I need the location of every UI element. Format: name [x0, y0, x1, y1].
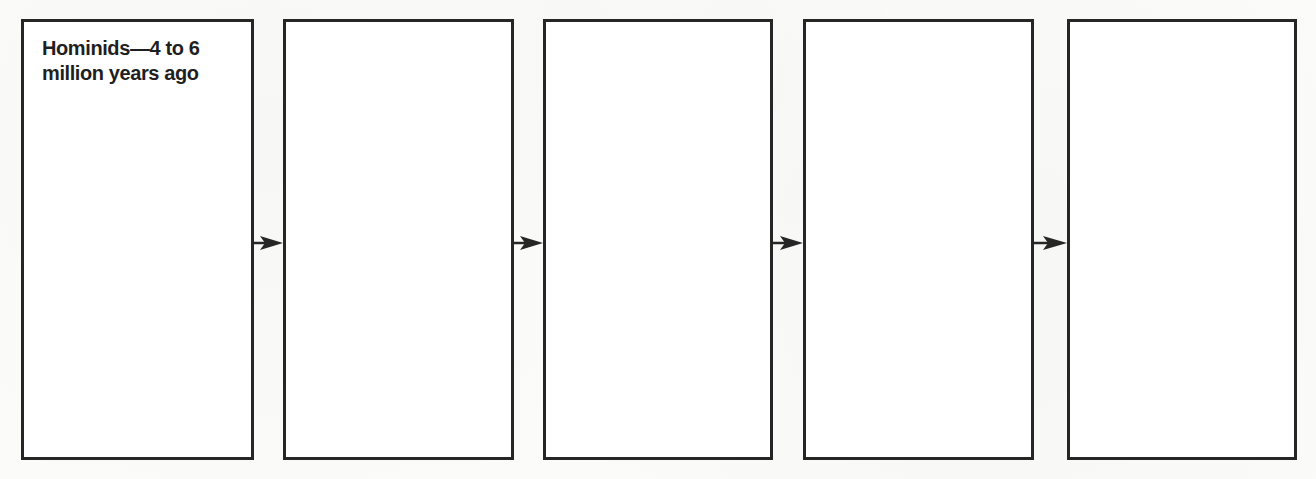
stage-box-2 [283, 19, 514, 460]
arrow-right-icon [512, 235, 544, 251]
stage-box-1: Hominids—4 to 6 million years ago [21, 19, 254, 460]
stage-label-1: Hominids—4 to 6 million years ago [42, 36, 242, 86]
arrow-right-icon [1032, 235, 1068, 251]
stage-box-5 [1067, 19, 1297, 460]
arrow-right-icon [252, 235, 284, 251]
stage-box-3 [543, 19, 773, 460]
arrow-right-icon [771, 235, 804, 251]
stage-box-4 [803, 19, 1034, 460]
